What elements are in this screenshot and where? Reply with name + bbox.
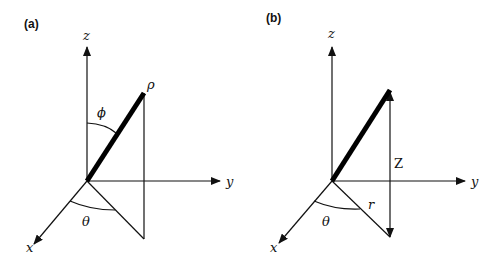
rho-label: ρ xyxy=(146,77,155,92)
x-axis-label: x xyxy=(26,240,34,255)
phi-label: ϕ xyxy=(97,105,106,120)
r-label: r xyxy=(368,197,375,212)
theta-angle-arc xyxy=(314,201,360,209)
r-projection-line xyxy=(332,181,390,237)
panel-a-label: (a) xyxy=(24,17,39,31)
panel-b-label: (b) xyxy=(266,11,281,25)
z-axis-label: z xyxy=(327,26,335,41)
theta-label: θ xyxy=(322,214,330,229)
coordinate-diagram: (a) z y x ρ ϕ θ (b) z y xyxy=(0,0,501,265)
theta-label: θ xyxy=(82,214,90,229)
radius-vector-rho xyxy=(87,93,144,181)
z-axis-label: z xyxy=(82,28,90,43)
xy-projection-line xyxy=(87,181,144,239)
x-axis xyxy=(34,181,87,244)
x-axis xyxy=(279,181,332,243)
panel-a: (a) z y x ρ ϕ θ xyxy=(24,17,234,255)
panel-b: (b) z y x Z r θ xyxy=(266,11,479,255)
radius-vector xyxy=(332,90,390,181)
phi-angle-arc xyxy=(87,123,116,133)
y-axis-label: y xyxy=(470,174,479,189)
x-axis-label: x xyxy=(270,240,278,255)
y-axis-label: y xyxy=(225,174,234,189)
height-Z-label: Z xyxy=(394,156,403,171)
